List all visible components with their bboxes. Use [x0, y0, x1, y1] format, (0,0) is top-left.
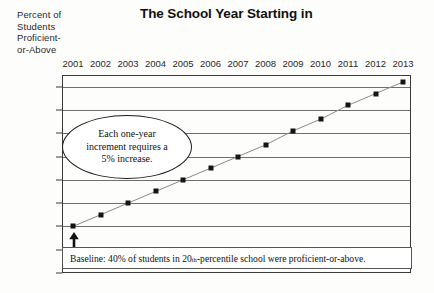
x-tick-label-2013: 2013 — [392, 58, 413, 69]
data-point-2012 — [373, 91, 378, 96]
chart-screenshot: Percent of Students Proficient- or-Above… — [0, 0, 434, 293]
data-point-2002 — [98, 212, 103, 217]
x-tick-label-2006: 2006 — [200, 58, 221, 69]
x-tick-label-2001: 2001 — [62, 58, 83, 69]
baseline-note: Baseline: 40% of students in 20th-percen… — [62, 247, 412, 269]
x-tick-label-2005: 2005 — [172, 58, 193, 69]
baseline-text-before: Baseline: 40% of students in 20 — [70, 253, 192, 264]
data-point-2004 — [153, 189, 158, 194]
x-tick-label-2003: 2003 — [117, 58, 138, 69]
data-point-2007 — [236, 154, 241, 159]
x-tick-label-2007: 2007 — [227, 58, 248, 69]
baseline-note-text: Baseline: 40% of students in 20th-percen… — [63, 253, 366, 264]
x-tick-label-2002: 2002 — [90, 58, 111, 69]
data-point-2006 — [208, 166, 213, 171]
data-point-2010 — [318, 117, 323, 122]
chart-title: The School Year Starting in — [140, 6, 313, 21]
x-tick-label-2009: 2009 — [282, 58, 303, 69]
data-point-2001 — [71, 224, 76, 229]
x-axis-tick-labels: 2001200220032004200520062007200820092010… — [0, 58, 434, 74]
x-tick-label-2010: 2010 — [310, 58, 331, 69]
data-point-2013 — [401, 79, 406, 84]
x-tick-label-2012: 2012 — [365, 58, 386, 69]
x-tick-label-2004: 2004 — [145, 58, 166, 69]
x-tick-label-2008: 2008 — [255, 58, 276, 69]
data-point-2009 — [291, 128, 296, 133]
callout-line-3: 5% increase. — [101, 153, 152, 164]
baseline-text-after: -percentile school were proficient-or-ab… — [197, 253, 366, 264]
callout-line-2: increment requires a — [86, 141, 168, 152]
y-axis-tick-labels: 2030405060708090100 — [0, 0, 62, 293]
x-tick-label-2011: 2011 — [338, 58, 358, 69]
callout-line-1: Each one-year — [98, 128, 155, 139]
increment-callout-text: Each one-year increment requires a 5% in… — [77, 128, 177, 166]
increment-callout: Each one-year increment requires a 5% in… — [62, 115, 192, 179]
data-point-2011 — [346, 103, 351, 108]
data-point-2005 — [181, 177, 186, 182]
data-point-2008 — [263, 142, 268, 147]
data-point-2003 — [126, 201, 131, 206]
